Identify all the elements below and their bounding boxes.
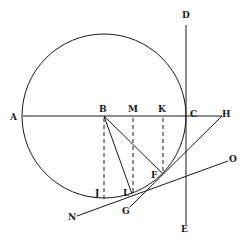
label-O: O [229,154,237,164]
label-K: K [158,104,167,114]
label-M: M [128,104,138,114]
segment-HG [130,116,222,207]
segment-BL [104,116,132,194]
label-F: F [151,170,158,180]
label-J: J [94,188,99,198]
label-E: E [181,224,188,234]
label-D: D [182,10,190,20]
point-labels: A B M K C H D E O N G F L J [9,10,237,234]
label-A: A [9,112,18,122]
label-G: G [122,206,130,216]
label-H: H [222,109,231,119]
label-B: B [99,104,107,114]
label-C: C [190,109,197,119]
geometric-diagram: A B M K C H D E O N G F L J [0,0,251,242]
segment-BF [104,116,162,173]
dashed-lines [104,118,163,199]
label-N: N [68,212,76,222]
label-L: L [123,188,130,198]
